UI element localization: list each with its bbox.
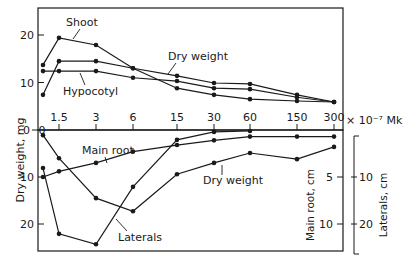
bottom-y-tick-label: 20 [20, 218, 34, 231]
annotation-dry-weight-top-pointer [168, 63, 176, 74]
laterals-axis-bracket [354, 136, 359, 254]
data-point [248, 129, 253, 134]
annotation-shoot-pointer [73, 29, 80, 39]
data-point [175, 143, 180, 148]
x-tick-label: 3 [93, 111, 100, 124]
y-axis-label-left: Dry weight, mg [14, 118, 27, 203]
annotation-laterals: Laterals [118, 231, 162, 244]
main-root-tick-label: 10 [319, 218, 333, 231]
data-point [94, 43, 99, 48]
series-line-laterals [43, 131, 250, 244]
x-axis-unit-label: × 10⁻⁷ Mk [346, 114, 403, 127]
series-lines [41, 36, 337, 247]
data-point [175, 86, 180, 91]
data-point [248, 87, 253, 92]
data-point [94, 196, 99, 201]
data-point [41, 166, 46, 171]
data-point [295, 134, 300, 139]
x-tick-label: 15 [170, 111, 184, 124]
data-point [94, 242, 99, 247]
data-point [248, 151, 253, 156]
x-tick-label: 6 [130, 111, 137, 124]
data-point [131, 66, 136, 71]
data-point [94, 69, 99, 74]
data-point [57, 232, 62, 237]
data-point [94, 59, 99, 64]
data-point [41, 93, 46, 98]
data-point [212, 138, 217, 143]
data-point [41, 63, 46, 68]
data-point [332, 100, 337, 105]
main-root-tick-label: 5 [326, 171, 333, 184]
data-point [248, 97, 253, 102]
data-point [295, 95, 300, 100]
data-point [175, 172, 180, 177]
x-tick-label: 1.5 [50, 111, 68, 124]
data-point [212, 86, 217, 91]
chart: 01.5361530601503001020010205101020 Dry w… [0, 0, 405, 262]
data-point [57, 36, 62, 41]
data-point [175, 79, 180, 84]
data-point [248, 82, 253, 87]
laterals-tick-label: 10 [359, 171, 373, 184]
data-point [212, 161, 217, 166]
x-tick-label: 150 [287, 111, 308, 124]
data-point [332, 145, 337, 150]
data-point [212, 81, 217, 86]
annotation-dry-weight-top: Dry weight [168, 50, 229, 63]
data-point [212, 93, 217, 98]
data-point [57, 169, 62, 174]
annotation-hypocotyl: Hypocotyl [63, 85, 118, 98]
y-axis-label-laterals: Laterals, cm [377, 173, 389, 238]
annotation-shoot: Shoot [66, 16, 98, 29]
x-tick-label: 300 [324, 111, 345, 124]
data-point [57, 59, 62, 64]
data-point [57, 156, 62, 161]
data-point [57, 69, 62, 74]
annotation-laterals-pointer [116, 219, 127, 231]
data-point [131, 185, 136, 190]
top-y-tick-label: 20 [20, 29, 34, 42]
laterals-tick-label: 20 [359, 218, 373, 231]
annotation-hypocotyl-pointer [80, 73, 85, 85]
data-point [41, 133, 46, 138]
data-point [41, 69, 46, 74]
x-tick-label: 30 [207, 111, 221, 124]
annotation-dry-weight-bottom: Dry weight [203, 174, 264, 187]
data-point [131, 75, 136, 80]
data-point [175, 138, 180, 143]
data-point [332, 134, 337, 139]
data-point [131, 209, 136, 214]
data-point [248, 134, 253, 139]
top-y-tick-label: 10 [20, 77, 34, 90]
data-point [94, 161, 99, 166]
data-point [212, 130, 217, 135]
x-tick-label: 60 [243, 111, 257, 124]
annotation-main-root: Main root [82, 144, 134, 157]
y-axis-label-main-root: Main root, cm [304, 169, 316, 241]
data-point [175, 74, 180, 79]
data-point [295, 157, 300, 162]
